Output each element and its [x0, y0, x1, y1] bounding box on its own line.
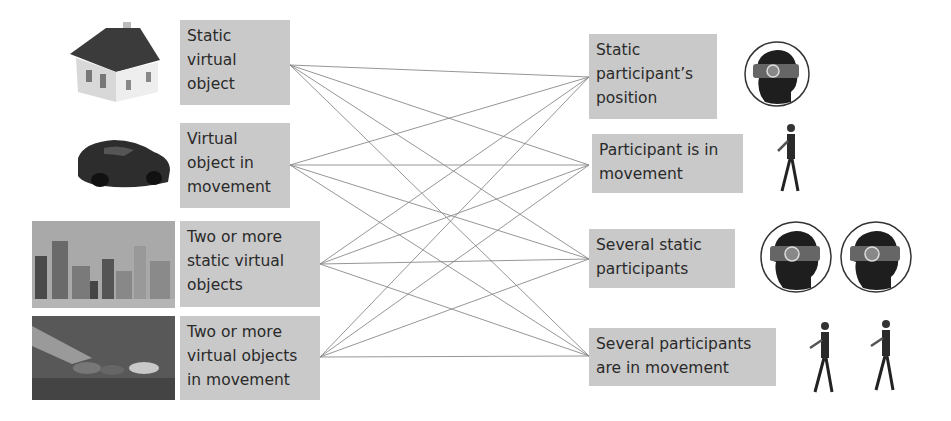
right-box-several-participants-in-movement: Several participantsare in movement	[589, 328, 776, 386]
right-box-static-participant-position: Staticparticipant’sposition	[589, 34, 717, 119]
walking-person-icon-2	[867, 318, 897, 396]
vr-headset-head-icon-2	[839, 220, 913, 294]
race-cars-image	[32, 316, 175, 400]
left-box-two-or-more-static-virtual-objects: Two or morestatic virtualobjects	[180, 221, 320, 307]
city-skyline-image	[32, 221, 175, 308]
vr-headset-head-icon-1	[759, 220, 833, 294]
left-box-static-virtual-object: Staticvirtualobject	[180, 20, 290, 105]
left-box-virtual-object-in-movement: Virtualobject inmovement	[180, 123, 290, 208]
right-box-several-static-participants: Several staticparticipants	[589, 229, 735, 288]
car-icon	[74, 130, 174, 190]
left-box-two-or-more-virtual-objects-in-movement: Two or morevirtual objectsin movement	[180, 316, 320, 400]
vr-headset-head-icon	[743, 40, 811, 108]
house-icon	[68, 22, 168, 104]
right-box-participant-in-movement: Participant is inmovement	[592, 134, 743, 193]
walking-person-icon	[774, 123, 802, 198]
walking-person-icon-1	[806, 320, 836, 398]
